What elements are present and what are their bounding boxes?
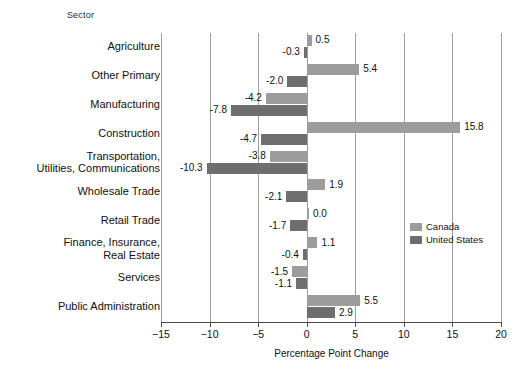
category-label-9: Public Administration <box>0 300 160 313</box>
x-tick-label-10: 10 <box>398 328 410 340</box>
plot-area <box>161 33 501 322</box>
gridline--5 <box>258 33 259 322</box>
bar-canada-4 <box>270 151 307 162</box>
gridline-5 <box>355 33 356 322</box>
value-label-united-states-4: -10.3 <box>180 162 203 173</box>
value-label-united-states-0: -0.3 <box>283 46 300 57</box>
bar-canada-0 <box>307 35 312 46</box>
bar-canada-3 <box>307 122 460 133</box>
category-label-4: Transportation, Utilities, Communication… <box>0 150 160 175</box>
x-tick-label--10: −10 <box>201 328 219 340</box>
x-tick-5 <box>355 322 356 327</box>
category-label-6: Retail Trade <box>0 214 160 227</box>
legend-item-united-states: United States <box>410 234 483 245</box>
bar-united-states-0 <box>304 47 307 58</box>
bar-united-states-2 <box>231 105 307 116</box>
x-tick-label--15: −15 <box>152 328 170 340</box>
x-tick-label--5: −5 <box>252 328 264 340</box>
value-label-canada-0: 0.5 <box>316 34 330 45</box>
legend-item-canada: Canada <box>410 221 483 232</box>
bar-united-states-1 <box>287 76 306 87</box>
category-label-0: Agriculture <box>0 40 160 53</box>
gridline-15 <box>452 33 453 322</box>
value-label-united-states-1: -2.0 <box>266 75 283 86</box>
value-label-united-states-5: -2.1 <box>265 191 282 202</box>
x-tick--5 <box>258 322 259 327</box>
value-label-united-states-9: 2.9 <box>339 307 353 318</box>
bar-chart: Sector AgricultureOther PrimaryManufactu… <box>0 0 516 376</box>
x-tick-0 <box>307 322 308 327</box>
x-tick-20 <box>501 322 502 327</box>
x-axis-title: Percentage Point Change <box>161 348 502 359</box>
bar-united-states-5 <box>286 191 306 202</box>
bar-canada-6 <box>307 208 309 219</box>
value-label-united-states-6: -1.7 <box>269 220 286 231</box>
value-label-canada-1: 5.4 <box>363 63 377 74</box>
gridline--15 <box>161 33 162 322</box>
bar-united-states-8 <box>296 278 307 289</box>
value-label-united-states-2: -7.8 <box>210 104 227 115</box>
x-tick--10 <box>210 322 211 327</box>
gridline-20 <box>501 33 502 322</box>
bar-united-states-3 <box>261 134 307 145</box>
bar-united-states-9 <box>307 307 335 318</box>
legend-swatch-canada <box>410 223 422 231</box>
sector-column-header: Sector <box>0 10 161 20</box>
category-label-1: Other Primary <box>0 69 160 82</box>
bar-canada-1 <box>307 64 359 75</box>
bar-canada-2 <box>266 93 307 104</box>
category-label-8: Services <box>0 271 160 284</box>
value-label-united-states-7: -0.4 <box>282 249 299 260</box>
legend-label-canada: Canada <box>426 221 459 232</box>
value-label-canada-7: 1.1 <box>321 237 335 248</box>
value-label-canada-9: 5.5 <box>364 295 378 306</box>
bar-canada-8 <box>292 266 307 277</box>
x-tick-10 <box>404 322 405 327</box>
bar-canada-5 <box>307 179 325 190</box>
bar-united-states-6 <box>290 220 307 231</box>
category-label-7: Finance, Insurance, Real Estate <box>0 236 160 261</box>
x-tick-label-20: 20 <box>495 328 507 340</box>
x-tick-label-5: 5 <box>352 328 358 340</box>
category-label-2: Manufacturing <box>0 98 160 111</box>
bar-united-states-7 <box>303 249 307 260</box>
value-label-canada-5: 1.9 <box>329 179 343 190</box>
legend: Canada United States <box>410 221 483 247</box>
x-tick-label-0: 0 <box>304 328 310 340</box>
category-label-3: Construction <box>0 127 160 140</box>
value-label-canada-2: -4.2 <box>245 92 262 103</box>
value-label-canada-4: -3.8 <box>249 150 266 161</box>
bar-canada-9 <box>307 295 360 306</box>
value-label-canada-6: 0.0 <box>313 208 327 219</box>
value-label-united-states-3: -4.7 <box>240 133 257 144</box>
x-tick--15 <box>161 322 162 327</box>
gridline-10 <box>404 33 405 322</box>
legend-swatch-united-states <box>410 236 422 244</box>
bar-canada-7 <box>307 237 318 248</box>
x-axis-line <box>161 322 502 323</box>
value-label-united-states-8: -1.1 <box>275 278 292 289</box>
legend-label-united-states: United States <box>426 234 483 245</box>
gridline-0 <box>307 33 308 322</box>
x-tick-15 <box>452 322 453 327</box>
value-label-canada-8: -1.5 <box>271 266 288 277</box>
bar-united-states-4 <box>207 163 307 174</box>
value-label-canada-3: 15.8 <box>464 121 483 132</box>
x-tick-label-15: 15 <box>447 328 459 340</box>
gridline--10 <box>210 33 211 322</box>
category-label-5: Wholesale Trade <box>0 185 160 198</box>
